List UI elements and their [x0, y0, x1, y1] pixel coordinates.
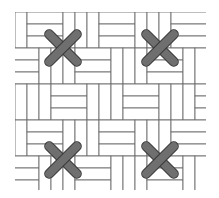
- weave-bar: [111, 0, 123, 12]
- weave-bar: [183, 0, 195, 12]
- weave-bar: [99, 144, 135, 156]
- weave-bar: [123, 192, 159, 198]
- weave-bar: [27, 132, 63, 144]
- weave-bar: [87, 0, 99, 12]
- weave-bar: [15, 12, 27, 48]
- weave-bar: [51, 96, 87, 108]
- weave-bar: [123, 84, 159, 96]
- weave-bar: [183, 192, 195, 198]
- weave-bar: [171, 12, 207, 24]
- weave-bar: [123, 48, 135, 84]
- weave-bar: [183, 156, 195, 192]
- weave-bar: [87, 120, 99, 156]
- weave-bar: [195, 48, 207, 84]
- weave-bar: [0, 108, 15, 120]
- weave-bar: [207, 48, 219, 84]
- weave-bar: [183, 48, 195, 84]
- weave-bar: [27, 120, 63, 132]
- weave-bar: [51, 84, 87, 96]
- weave-bar: [111, 192, 123, 198]
- weave-bar: [27, 0, 39, 12]
- weave-bar: [87, 12, 99, 48]
- weave-bar: [3, 60, 39, 72]
- weave-bar: [111, 156, 123, 192]
- weave-bar: [99, 36, 135, 48]
- weave-bar: [123, 96, 159, 108]
- weave-bar: [0, 96, 15, 108]
- weave-bar: [3, 48, 39, 60]
- weave-bar: [0, 84, 15, 96]
- weave-bar: [171, 0, 183, 12]
- weave-bar: [207, 156, 219, 192]
- weave-bar: [15, 192, 27, 198]
- weave-bar: [39, 0, 51, 12]
- weave-bar: [99, 12, 135, 24]
- weave-bar: [3, 120, 15, 156]
- weave-bar: [27, 84, 39, 120]
- weave-bar: [159, 84, 171, 120]
- weave-bar: [0, 12, 3, 48]
- weave-bar: [195, 84, 219, 96]
- weave-bar: [75, 72, 111, 84]
- weave-bar: [147, 72, 183, 84]
- weave-bar: [195, 0, 219, 12]
- weave-bar: [147, 180, 183, 192]
- weave-bar: [0, 192, 15, 198]
- weave-bar: [159, 192, 171, 198]
- weave-bar: [75, 156, 111, 168]
- weave-bar: [87, 192, 99, 198]
- weave-bar: [3, 72, 39, 84]
- weave-bar: [51, 192, 87, 198]
- weave-bar: [0, 0, 15, 12]
- weave-bar: [195, 192, 219, 198]
- weave-bar: [87, 84, 99, 120]
- weave-bar: [75, 180, 111, 192]
- weave-bar: [15, 84, 27, 120]
- weave-bar: [27, 12, 63, 24]
- weave-bar: [99, 132, 135, 144]
- weave-bar: [15, 0, 27, 12]
- weave-bar: [3, 168, 39, 180]
- weave-bar: [75, 48, 111, 60]
- weave-bar: [195, 156, 207, 192]
- weave-bar: [39, 84, 51, 120]
- weave-bar: [171, 84, 183, 120]
- weave-bar: [0, 156, 3, 192]
- weave-bar: [183, 84, 195, 120]
- weave-bar: [111, 84, 123, 120]
- weave-bar: [99, 84, 111, 120]
- weave-bar: [195, 96, 219, 108]
- weave-bar: [15, 120, 27, 156]
- weave-bar: [0, 48, 3, 84]
- weave-diagram: [0, 0, 219, 198]
- weave-bar: [195, 108, 219, 120]
- weave-bar: [3, 156, 39, 168]
- weave-bar: [171, 120, 207, 132]
- weave-bar: [123, 0, 159, 12]
- weave-bar: [99, 0, 111, 12]
- weave-bar: [207, 120, 219, 156]
- weave-bar: [99, 192, 111, 198]
- weave-bar: [111, 48, 123, 84]
- weave-bar: [171, 192, 183, 198]
- weave-bar: [39, 192, 51, 198]
- weave-bar: [123, 108, 159, 120]
- weave-bar: [3, 12, 15, 48]
- weave-bar: [207, 12, 219, 48]
- weave-bar: [3, 180, 39, 192]
- weave-bar: [0, 120, 3, 156]
- weave-bar: [99, 120, 135, 132]
- basketweave-grid: [0, 0, 219, 198]
- weave-bar: [123, 156, 135, 192]
- weave-bar: [51, 0, 87, 12]
- weave-bar: [159, 0, 171, 12]
- weave-bar: [99, 24, 135, 36]
- weave-bar: [51, 108, 87, 120]
- weave-bar: [27, 192, 39, 198]
